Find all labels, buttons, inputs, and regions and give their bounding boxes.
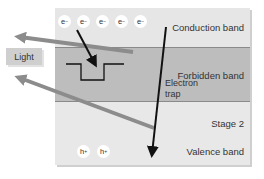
light-emission-arrow-2	[20, 78, 154, 128]
arrows-overlay	[0, 0, 264, 179]
light-emission-arrow-1	[20, 37, 133, 52]
recombination-arrow	[152, 27, 166, 154]
electron-trap-well	[66, 64, 124, 80]
